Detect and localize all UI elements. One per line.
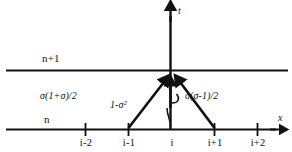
contribution-arrow-left [129,82,165,128]
tick-label-i-plus-2: i+2 [237,138,279,149]
t-axis-label: t [178,6,181,16]
figure-canvas [0,0,292,152]
coefficient-right-text: σ(σ-1)/2 [185,90,218,101]
coefficient-left-text: σ(1+σ)/2 [40,90,77,101]
tick-label-i-plus-1: i+1 [194,138,236,149]
x-axis-label: x [278,113,282,123]
contribution-arrow-right [180,82,215,128]
center-label-leader-upper [172,94,178,103]
tick-label-i-minus-1: i-1 [108,138,150,149]
time-level-label-upper: n+1 [42,53,60,64]
tick-label-i-minus-2: i-2 [65,138,107,149]
time-level-label-lower: n [44,114,50,125]
tick-label-i: i [151,138,193,149]
stencil-figure: n+1 n x t i-2 i-1 i i+1 i+2 σ(1+σ)/2 1-σ… [0,0,292,152]
coefficient-label-left: σ(1+σ)/2 [40,91,77,101]
coefficient-label-center: 1-σ² [110,100,127,110]
coefficient-label-right: σ(σ-1)/2 [185,91,218,101]
coefficient-center-text: 1-σ² [110,99,127,110]
